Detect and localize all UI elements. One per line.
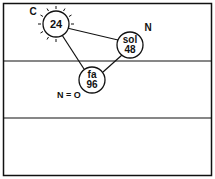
node-fa-corner-label: N = O [57,90,81,100]
node-sol-value: 48 [124,44,136,55]
node-24-value: 24 [50,18,63,30]
diagram-canvas: 24 C sol 48 N fa 96 N = O [0,0,215,179]
outer-frame [4,4,212,176]
node-sol-corner-label: N [144,22,151,33]
node-24-corner-label: C [29,6,36,17]
node-fa-value: 96 [86,79,98,90]
